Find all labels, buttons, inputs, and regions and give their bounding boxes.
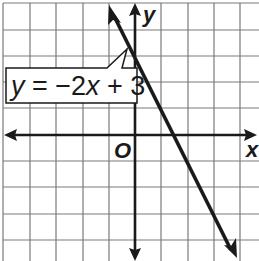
coordinate-graph: y = −2x + 3 y x O: [0, 0, 259, 261]
grid: [3, 3, 259, 261]
y-axis: [129, 3, 141, 261]
line-top-arrow-icon: [108, 5, 121, 25]
equation-label: y = −2x + 3: [9, 71, 145, 101]
x-axis-label: x: [245, 137, 259, 162]
y-axis-label: y: [142, 2, 157, 27]
line-y-equals-neg2x-plus-3: [108, 5, 237, 258]
origin-label: O: [114, 138, 131, 163]
equation-callout: y = −2x + 3: [6, 49, 145, 103]
